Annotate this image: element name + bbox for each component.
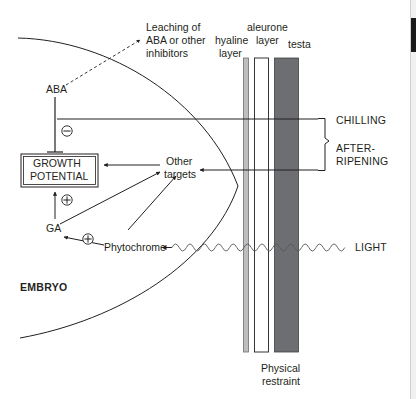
after-ripening-label-line2: RIPENING (336, 155, 388, 167)
other-targets-label: Other targets (164, 155, 196, 180)
diagram-canvas: Leaching of ABA or other inhibitors hyal… (0, 0, 416, 399)
physical-restraint-line1: Physical (261, 362, 300, 374)
scrollbar-track[interactable] (410, 0, 416, 399)
plus-symbol-growth (62, 195, 72, 205)
physical-restraint-label: Physical restraint (261, 362, 300, 387)
seed-dormancy-diagram: Leaching of ABA or other inhibitors hyal… (0, 0, 416, 399)
phytochrome-label: Phytochrome (104, 241, 166, 253)
other-targets-line2: targets (164, 168, 196, 180)
physical-restraint-line2: restraint (262, 375, 300, 387)
ga-label: GA (46, 222, 61, 234)
aleurone-layer-label-line1: aleurone (247, 21, 288, 33)
light-label: LIGHT (355, 241, 387, 253)
growth-potential-box: GROWTH POTENTIAL (21, 154, 98, 187)
after-ripening-label-line1: AFTER- (336, 142, 375, 154)
aba-label: ABA (46, 83, 67, 95)
scrollbar-thumb[interactable] (411, 18, 416, 52)
growth-potential-label-line2: POTENTIAL (30, 170, 89, 182)
aleurone-layer-label-line2: layer (256, 34, 279, 46)
leaching-label-line1: Leaching of (146, 21, 200, 33)
hyaline-layer-bar (244, 58, 249, 352)
hyaline-layer-label-line1: hyaline (215, 34, 248, 46)
growth-potential-label-line1: GROWTH (33, 157, 81, 169)
aleurone-layer-bar (255, 58, 269, 352)
embryo-label: EMBRYO (20, 281, 68, 293)
minus-symbol-aba (62, 126, 72, 136)
plus-symbol-ga (83, 234, 93, 244)
hyaline-layer-label-line2: layer (219, 47, 242, 59)
testa-bar (275, 58, 299, 352)
chilling-label: CHILLING (336, 114, 386, 126)
other-targets-line1: Other (166, 155, 193, 167)
testa-label: testa (288, 38, 311, 50)
leaching-label-line2: ABA or other (146, 34, 206, 46)
leaching-label-line3: inhibitors (146, 47, 188, 59)
